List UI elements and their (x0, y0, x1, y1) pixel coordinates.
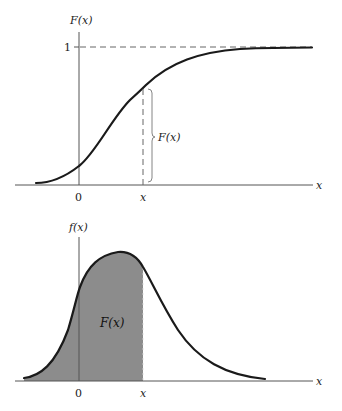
cdf-x-tick-zero-label: 0 (75, 191, 82, 204)
cdf-y-tick-one-label: 1 (64, 41, 71, 54)
cdf-pdf-diagram: F(x) 1 x 0 x F(x) f(x) x 0 x F(x) (0, 0, 342, 411)
pdf-y-axis-label: f(x) (68, 221, 88, 234)
cdf-y-axis-label: F(x) (69, 14, 92, 27)
pdf-shaded-area (24, 252, 143, 381)
cdf-curve (36, 48, 312, 184)
pdf-x-tick-zero-label: 0 (75, 387, 82, 400)
cdf-x-tick-x-label: x (140, 191, 147, 204)
cdf-height-brace (148, 89, 155, 182)
pdf-x-axis-label: x (316, 375, 323, 388)
cdf-bracket-label: F(x) (157, 131, 180, 144)
cdf-chart: F(x) 1 x 0 x F(x) (15, 14, 323, 204)
cdf-x-axis-label: x (316, 179, 323, 192)
pdf-area-label: F(x) (99, 316, 125, 330)
pdf-x-tick-x-label: x (140, 387, 147, 400)
pdf-chart: f(x) x 0 x F(x) (15, 221, 323, 400)
